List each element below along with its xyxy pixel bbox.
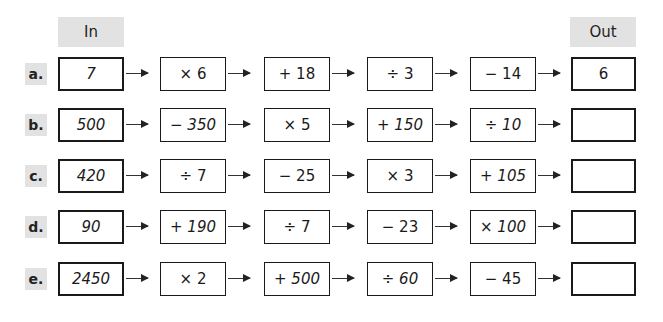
function-machine-row-c: c. 420 ÷ 7 − 25 × 3 + 105 [0,159,663,193]
operation-box: − 350 [160,108,226,142]
arrow-right-icon [126,124,148,125]
arrow-right-icon [228,124,250,125]
operation-box: − 14 [470,57,536,91]
operation-box: + 500 [264,262,330,296]
operation-box: × 5 [264,108,330,142]
arrow-right-icon [538,73,560,74]
row-label: b. [25,114,47,136]
function-machine-row-d: d. 90 + 190 ÷ 7 − 23 × 100 [0,210,663,244]
operation-box: ÷ 3 [367,57,433,91]
function-machine-row-e: e. 2450 × 2 + 500 ÷ 60 − 45 [0,262,663,296]
operation-box: ÷ 10 [470,108,536,142]
operation-box: × 3 [367,159,433,193]
operation-box: ÷ 7 [160,159,226,193]
arrow-right-icon [228,175,250,176]
operation-box: + 150 [367,108,433,142]
arrow-right-icon [332,124,354,125]
arrow-right-icon [228,73,250,74]
row-label: c. [25,165,47,187]
operation-box: + 105 [470,159,536,193]
operation-box: × 2 [160,262,226,296]
arrow-right-icon [435,175,457,176]
row-label: e. [25,268,47,290]
arrow-right-icon [332,226,354,227]
arrow-right-icon [435,73,457,74]
row-label: a. [25,63,47,85]
operation-box: + 18 [264,57,330,91]
operation-box: ÷ 7 [264,210,330,244]
arrow-right-icon [538,175,560,176]
function-machine-row-a: a. 7 × 6 + 18 ÷ 3 − 14 6 [0,57,663,91]
arrow-right-icon [126,175,148,176]
input-box: 7 [58,57,124,91]
operation-box: ÷ 60 [367,262,433,296]
arrow-right-icon [126,73,148,74]
input-box: 500 [58,108,124,142]
output-box[interactable] [571,210,636,244]
arrow-right-icon [228,278,250,279]
out-header: Out [570,17,636,47]
in-header: In [58,17,124,47]
arrow-right-icon [538,226,560,227]
input-box: 420 [58,159,124,193]
operation-box: − 45 [470,262,536,296]
input-box: 90 [58,210,124,244]
arrow-right-icon [126,226,148,227]
output-box[interactable]: 6 [571,57,636,91]
arrow-right-icon [435,278,457,279]
arrow-right-icon [435,124,457,125]
operation-box: − 25 [264,159,330,193]
operation-box: + 190 [160,210,226,244]
arrow-right-icon [332,73,354,74]
operation-box: − 23 [367,210,433,244]
arrow-right-icon [538,124,560,125]
function-machine-row-b: b. 500 − 350 × 5 + 150 ÷ 10 [0,108,663,142]
operation-box: × 100 [470,210,536,244]
arrow-right-icon [332,175,354,176]
output-box[interactable] [571,108,636,142]
arrow-right-icon [228,226,250,227]
arrow-right-icon [332,278,354,279]
arrow-right-icon [126,278,148,279]
row-label: d. [25,216,47,238]
operation-box: × 6 [160,57,226,91]
output-box[interactable] [571,262,636,296]
arrow-right-icon [435,226,457,227]
output-box[interactable] [571,159,636,193]
input-box: 2450 [58,262,124,296]
arrow-right-icon [538,278,560,279]
